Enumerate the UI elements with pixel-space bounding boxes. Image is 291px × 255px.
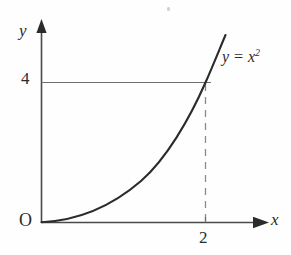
x-axis-label: x [271,211,279,228]
origin-label: O [19,211,32,229]
y-axis-arrow-icon [36,19,46,33]
curve-equation-exponent: 2 [255,47,260,58]
graph-figure: y x O 4 2 y = x2 [0,0,291,255]
y-axis-label: y [19,22,27,39]
graph-canvas [0,0,291,255]
curve-equation-base: y = x [222,48,255,65]
x-axis-arrow-icon [253,217,269,228]
curve-equation-label: y = x2 [222,49,260,65]
parabola-curve [42,35,226,222]
y-tick-label-4: 4 [21,70,30,87]
x-tick-label-2: 2 [199,229,208,246]
scan-artifact-speck [167,7,170,11]
